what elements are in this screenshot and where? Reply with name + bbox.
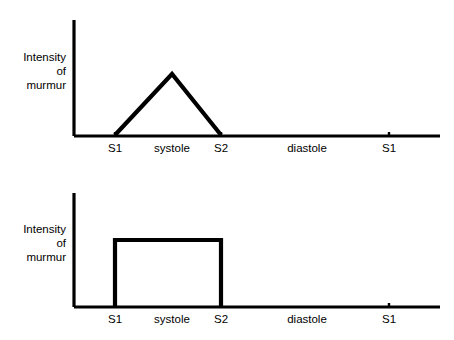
x-tick-label-systole-top: systole: [154, 142, 190, 155]
x-tick-label-s2-bottom: S2: [214, 313, 228, 326]
murmur-waveform-crescendo-decrescendo: [115, 74, 221, 135]
x-tick-label-s1-second-bottom: S1: [382, 313, 396, 326]
x-tick-label-s2-top: S2: [214, 142, 228, 155]
murmur-chart-crescendo-decrescendo: Intensity of murmur S1 systole S2 diasto…: [0, 0, 454, 170]
murmur-waveform-holosystolic-plateau: [115, 240, 221, 306]
murmur-chart-holosystolic-plateau: Intensity of murmur S1 systole S2 diasto…: [0, 170, 454, 340]
x-tick-label-diastole-top: diastole: [287, 142, 327, 155]
x-tick-label-s1-first-bottom: S1: [108, 313, 122, 326]
x-tick-label-s1-second-top: S1: [382, 142, 396, 155]
x-tick-label-diastole-bottom: diastole: [287, 313, 327, 326]
x-tick-label-systole-bottom: systole: [154, 313, 190, 326]
x-tick-label-s1-first-top: S1: [108, 142, 122, 155]
